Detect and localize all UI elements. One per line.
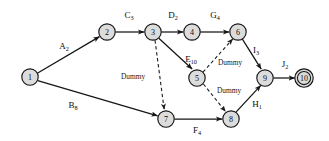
node-4-label: 4 bbox=[190, 28, 194, 37]
node-7[interactable]: 7 bbox=[158, 111, 174, 127]
edge-label-I: I3 bbox=[253, 45, 259, 56]
node-6[interactable]: 6 bbox=[230, 24, 246, 40]
edge-label-B: B8 bbox=[68, 100, 77, 111]
node-9-label: 9 bbox=[263, 74, 267, 83]
edge-label-C: C3 bbox=[124, 10, 133, 21]
node-10-label: 10 bbox=[300, 74, 308, 83]
node-4[interactable]: 4 bbox=[184, 24, 200, 40]
edge-label-A: A2 bbox=[59, 41, 69, 52]
node-5[interactable]: 5 bbox=[189, 70, 205, 86]
edge-B-1-to-7 bbox=[38, 81, 158, 116]
nodes-layer: 1 2 3 4 6 5 9 bbox=[22, 24, 313, 127]
edge-label-E: E10 bbox=[185, 54, 197, 65]
edge-A-1-to-2 bbox=[37, 37, 99, 74]
edge-dummy-5-to-6 bbox=[203, 39, 233, 72]
network-diagram-canvas: A2 B8 C3 D2 G4 E10 I3 J2 F4 H1 Dummy Dum… bbox=[0, 0, 329, 141]
node-1[interactable]: 1 bbox=[22, 69, 38, 85]
edge-dummy-3-to-7 bbox=[155, 40, 164, 109]
node-2-label: 2 bbox=[105, 28, 109, 37]
edge-label-H: H1 bbox=[252, 99, 262, 110]
edge-label-dummy-5-8: Dummy bbox=[217, 86, 242, 95]
node-9[interactable]: 9 bbox=[257, 70, 273, 86]
edge-label-G: G4 bbox=[210, 10, 220, 21]
node-2[interactable]: 2 bbox=[99, 24, 115, 40]
node-8-label: 8 bbox=[229, 115, 233, 124]
network-diagram-figure: A2 B8 C3 D2 G4 E10 I3 J2 F4 H1 Dummy Dum… bbox=[0, 0, 329, 141]
node-3[interactable]: 3 bbox=[145, 24, 161, 40]
node-1-label: 1 bbox=[28, 73, 32, 82]
node-10[interactable]: 10 bbox=[295, 69, 313, 87]
edge-label-J: J2 bbox=[282, 59, 289, 70]
edge-label-D: D2 bbox=[168, 10, 178, 21]
edge-label-dummy-5-6: Dummy bbox=[218, 58, 243, 67]
node-3-label: 3 bbox=[151, 28, 155, 37]
edge-label-dummy-3-7: Dummy bbox=[121, 72, 146, 81]
edge-label-F: F4 bbox=[193, 125, 201, 136]
node-5-label: 5 bbox=[195, 74, 199, 83]
node-6-label: 6 bbox=[236, 28, 240, 37]
node-8[interactable]: 8 bbox=[223, 111, 239, 127]
node-7-label: 7 bbox=[164, 115, 168, 124]
